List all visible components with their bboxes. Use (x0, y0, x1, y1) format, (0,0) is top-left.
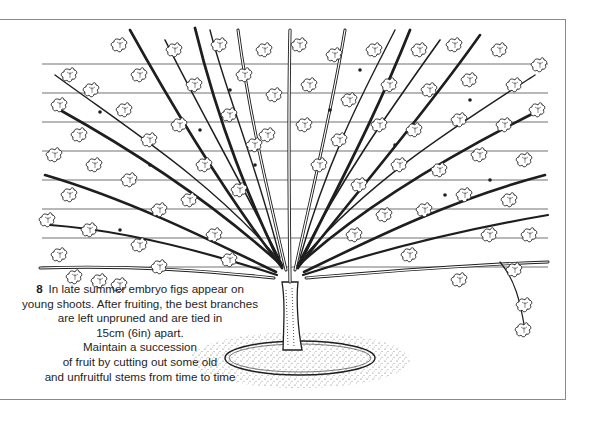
trunk (282, 282, 302, 350)
caption-line-1: 8In late summer embryo figs appear on (10, 282, 270, 297)
caption-line-2: young shoots. After fruiting, the best b… (10, 297, 270, 312)
figure-caption: 8In late summer embryo figs appear on yo… (10, 282, 270, 384)
caption-line-3: are left unpruned and are tied in (10, 311, 270, 326)
figure-number: 8 (36, 282, 42, 295)
caption-line-5: Maintain a succession (10, 340, 270, 355)
caption-line-4: 15cm (6in) apart. (10, 326, 270, 341)
caption-line-7: and unfruitful stems from time to time (10, 370, 270, 385)
caption-line-6: of fruit by cutting out some old (10, 355, 270, 370)
training-wires (42, 64, 548, 267)
